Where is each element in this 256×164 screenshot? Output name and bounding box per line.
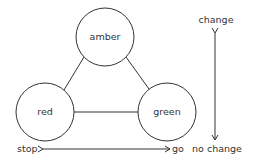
no-change-label: no change [192, 143, 242, 154]
edge-amber-green [126, 57, 149, 89]
node-red: red [16, 83, 74, 141]
node-green: green [138, 83, 196, 141]
node-red-label: red [37, 106, 53, 117]
edge-amber-red [64, 57, 84, 90]
node-amber-label: amber [90, 31, 121, 42]
stop-label: stop [17, 143, 38, 154]
go-label: go [172, 143, 184, 154]
traffic-light-diagram: amber red green stop go change no change [0, 0, 256, 164]
change-label: change [199, 14, 234, 25]
node-green-label: green [153, 106, 180, 117]
node-amber: amber [76, 8, 134, 66]
